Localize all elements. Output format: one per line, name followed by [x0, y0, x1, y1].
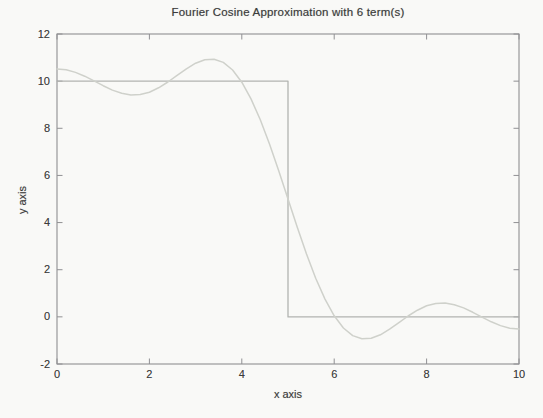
- y-tick-label: 2: [10, 263, 50, 275]
- y-tick-label: 6: [10, 169, 50, 181]
- y-tick-label: 12: [10, 28, 50, 40]
- x-tick-label: 2: [134, 368, 164, 380]
- x-tick-label: 0: [42, 368, 72, 380]
- y-tick-label: 4: [10, 216, 50, 228]
- x-tick-label: 8: [412, 368, 442, 380]
- x-tick-label: 6: [319, 368, 349, 380]
- y-tick-label: 0: [10, 310, 50, 322]
- y-tick-label: 10: [10, 75, 50, 87]
- plot-lines-group: [57, 34, 519, 364]
- x-tick-label: 10: [504, 368, 534, 380]
- y-tick-label: -2: [10, 358, 50, 370]
- matlab-figure: Fourier Cosine Approximation with 6 term…: [0, 0, 543, 418]
- x-tick-label: 4: [227, 368, 257, 380]
- y-tick-label: 8: [10, 122, 50, 134]
- x-axis-label: x axis: [57, 388, 519, 400]
- plot-canvas: [0, 0, 543, 418]
